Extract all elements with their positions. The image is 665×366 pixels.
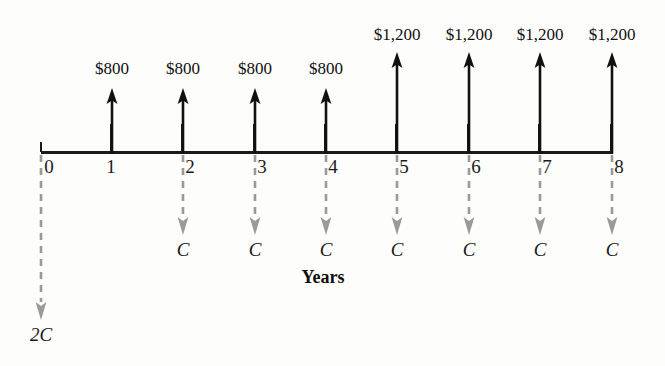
outflow-arrow-year-5 [389, 155, 405, 235]
inflow-label-year-5: $1,200 [357, 26, 437, 43]
year-label-1: 1 [96, 157, 126, 176]
inflow-label-year-1: $800 [72, 60, 152, 77]
outflow-label-year-2: C [158, 240, 208, 259]
outflow-label-year-6: C [444, 240, 494, 259]
cash-flow-diagram: 0 1 2 3 4 5 6 7 8 [0, 0, 665, 366]
inflow-label-year-4: $800 [286, 60, 366, 77]
outflow-label-year-3: C [230, 240, 280, 259]
inflow-label-year-3: $800 [215, 60, 295, 77]
axis-tick-0 [40, 142, 42, 152]
inflow-label-year-6: $1,200 [429, 26, 509, 43]
inflow-arrow-year-4 [318, 88, 334, 154]
outflow-arrow-year-7 [532, 155, 548, 235]
outflow-label-year-7: C [515, 240, 565, 259]
outflow-arrow-year-3 [247, 155, 263, 235]
outflow-arrow-year-0 [33, 155, 49, 320]
inflow-arrow-year-3 [247, 88, 263, 154]
inflow-arrow-year-5 [389, 52, 405, 154]
inflow-arrow-year-2 [175, 88, 191, 154]
outflow-label-year-4: C [301, 240, 351, 259]
axis-title-years: Years [258, 268, 388, 286]
inflow-label-year-8: $1,200 [572, 26, 652, 43]
outflow-arrow-year-4 [318, 155, 334, 235]
inflow-arrow-year-7 [532, 52, 548, 154]
inflow-arrow-year-6 [461, 52, 477, 154]
outflow-label-year-5: C [372, 240, 422, 259]
outflow-arrow-year-8 [604, 155, 620, 235]
initial-outflow-label: 2C [16, 325, 66, 344]
outflow-arrow-year-2 [175, 155, 191, 235]
inflow-label-year-2: $800 [143, 60, 223, 77]
inflow-arrow-year-8 [604, 52, 620, 154]
inflow-arrow-year-1 [104, 88, 120, 154]
outflow-label-year-8: C [587, 240, 637, 259]
outflow-arrow-year-6 [461, 155, 477, 235]
inflow-label-year-7: $1,200 [500, 26, 580, 43]
